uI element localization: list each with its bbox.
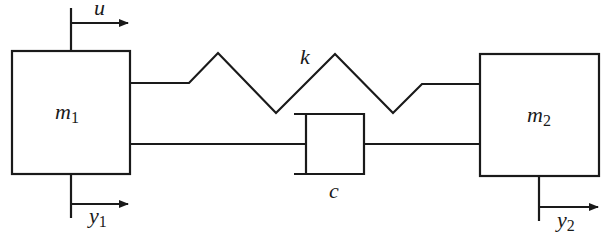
mass-spring-damper-diagram: m1 u y1 k c m2 y2	[0, 0, 612, 234]
output-y2-subscript: 2	[567, 217, 575, 234]
input-u-arrow: u	[71, 0, 128, 51]
output-y2-label: y	[555, 207, 567, 232]
mass-1-label: m	[55, 99, 71, 124]
output-y1-subscript: 1	[99, 213, 107, 230]
svg-text:y1: y1	[87, 203, 107, 230]
mass-2-label: m	[527, 102, 543, 127]
svg-text:m1: m1	[55, 99, 79, 126]
damper-c: c	[130, 114, 480, 203]
damper-c-label: c	[329, 178, 339, 203]
mass-2: m2	[480, 54, 599, 176]
input-u-label: u	[94, 0, 105, 20]
mass-2-subscript: 2	[543, 112, 551, 129]
output-y1-label: y	[87, 203, 99, 228]
mass-1: m1	[12, 51, 130, 174]
svg-text:m2: m2	[527, 102, 551, 129]
svg-text:y2: y2	[555, 207, 575, 234]
spring-k: k	[130, 44, 480, 113]
spring-k-label: k	[300, 44, 311, 69]
output-y1-arrow: y1	[71, 174, 128, 230]
mass-1-subscript: 1	[71, 109, 79, 126]
output-y2-arrow: y2	[539, 176, 598, 234]
